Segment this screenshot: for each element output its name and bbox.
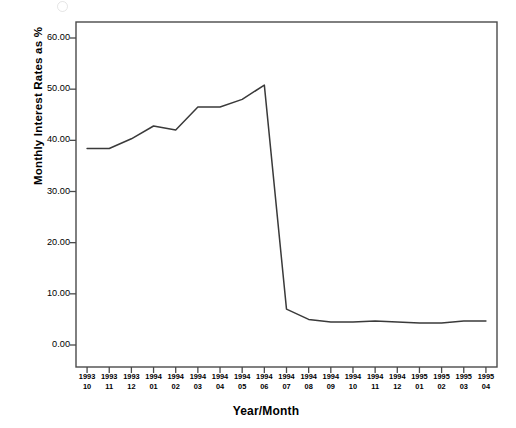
plot-canvas — [0, 0, 516, 428]
chart-figure: Monthly Interest Rates as % Year/Month 0… — [0, 0, 516, 428]
data-series-line — [87, 85, 486, 323]
y-tick-marks — [70, 38, 76, 345]
x-tick-marks — [87, 367, 486, 373]
plot-frame — [76, 22, 497, 367]
